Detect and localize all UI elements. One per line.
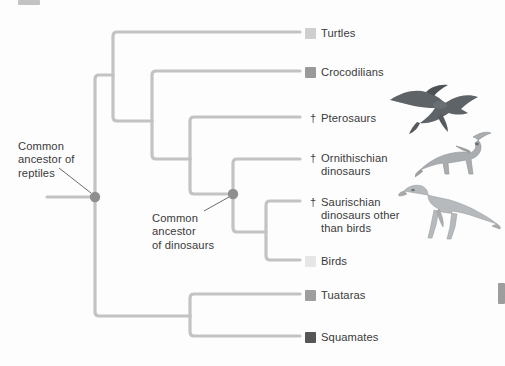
swatch-turtles (305, 28, 316, 39)
branch-to-pterosaurs (190, 117, 300, 159)
taxon-label-crocodilians: Crocodilians (321, 66, 384, 79)
swatch-crocodilians (305, 67, 316, 78)
branch-ornithodira-to-dinosauria (190, 159, 233, 194)
branch-to-ornithischians (233, 159, 300, 194)
taxon-pterosaurs[interactable]: † Pterosaurs (305, 112, 376, 125)
extinct-dagger-icon: † (305, 196, 316, 208)
taxon-label-birds: Birds (321, 255, 347, 268)
branch-to-turtles (113, 32, 300, 75)
branch-to-squamates (190, 316, 300, 336)
swatch-squamates (305, 332, 316, 343)
branch-dinosauria-to-saurischia (233, 194, 266, 232)
figure-canvas: Turtles Crocodilians † Pterosaurs † Orni… (0, 0, 505, 366)
taxon-saurischian-dinosaurs[interactable]: † Saurischian dinosaurs other than birds (305, 196, 400, 236)
branch-to-birds (266, 232, 300, 260)
taxon-label-squamates: Squamates (321, 331, 379, 344)
taxon-label-saurischian-dinosaurs: Saurischian dinosaurs other than birds (321, 196, 400, 236)
leader-line-dinosaurs (204, 197, 229, 211)
branch-to-crocodilians (152, 71, 300, 121)
taxon-ornithischian-dinosaurs[interactable]: † Ornithischian dinosaurs (305, 152, 388, 178)
taxon-tuataras[interactable]: Tuataras (305, 289, 366, 302)
branch-archelosaur-to-archosaur (113, 75, 152, 121)
extinct-dagger-icon: † (305, 152, 316, 164)
annotation-common-ancestor-reptiles: Common ancestor of reptiles (18, 140, 74, 180)
taxon-birds[interactable]: Birds (305, 255, 347, 268)
taxon-turtles[interactable]: Turtles (305, 27, 355, 40)
taxon-label-turtles: Turtles (321, 27, 355, 40)
node-common-ancestor-dinosaurs (228, 189, 238, 199)
theropod-illustration (398, 177, 501, 243)
taxon-label-tuataras: Tuataras (321, 289, 366, 302)
taxon-squamates[interactable]: Squamates (305, 331, 379, 344)
branch-to-saurischian-dinosaurs (266, 201, 300, 232)
extinct-dagger-icon: † (305, 112, 316, 124)
taxon-label-pterosaurs: Pterosaurs (321, 112, 376, 125)
taxon-label-ornithischian-dinosaurs: Ornithischian dinosaurs (321, 152, 388, 178)
swatch-birds (305, 256, 316, 267)
branch-root-to-archelosaur (95, 75, 113, 197)
node-common-ancestor-reptiles (90, 192, 100, 202)
branch-to-tuataras (190, 294, 300, 316)
annotation-common-ancestor-dinosaurs: Common ancestor of dinosaurs (152, 212, 214, 252)
branch-archosaur-to-ornithodira (152, 121, 190, 159)
swatch-tuataras (305, 290, 316, 301)
taxon-crocodilians[interactable]: Crocodilians (305, 66, 384, 79)
